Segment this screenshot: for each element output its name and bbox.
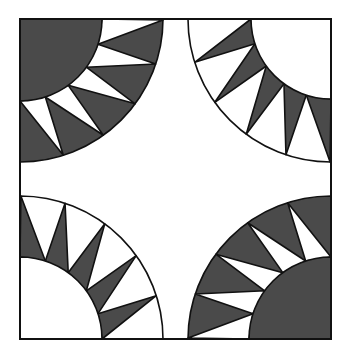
quilt-block-drawing <box>0 0 347 360</box>
quilt-block: Quilt block pattern <box>0 0 347 360</box>
